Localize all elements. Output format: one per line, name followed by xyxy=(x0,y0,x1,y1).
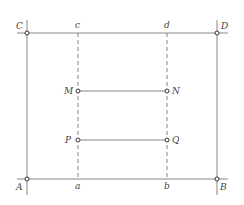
point-B xyxy=(215,177,219,181)
label-M: M xyxy=(63,86,74,96)
geometry-diagram: C D A B c d a b M N P Q xyxy=(0,0,244,205)
label-a: a xyxy=(75,181,80,191)
point-P xyxy=(76,138,80,142)
label-P: P xyxy=(64,135,72,145)
label-A: A xyxy=(15,182,23,192)
label-B: B xyxy=(219,182,227,192)
point-Q xyxy=(165,138,169,142)
point-M xyxy=(76,89,80,93)
label-c: c xyxy=(75,20,80,30)
label-D: D xyxy=(220,21,228,31)
label-Q: Q xyxy=(172,135,180,145)
point-N xyxy=(165,89,169,93)
label-d: d xyxy=(164,20,170,30)
label-N: N xyxy=(171,86,181,96)
label-b: b xyxy=(164,181,170,191)
point-C xyxy=(25,31,29,35)
point-A xyxy=(25,177,29,181)
label-C: C xyxy=(16,21,23,31)
point-D xyxy=(215,31,219,35)
